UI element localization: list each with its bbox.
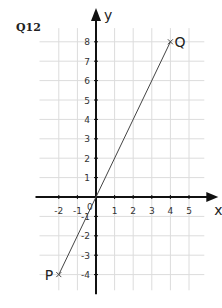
y-tick-label: -3	[81, 251, 90, 261]
coordinate-plot: xy-2-112345-4-3-2-1123456780PQ	[0, 0, 222, 308]
y-axis-arrow-icon	[91, 8, 101, 21]
x-tick-label: 1	[112, 206, 118, 216]
x-tick-label: 4	[168, 206, 174, 216]
y-tick-label: 4	[84, 115, 90, 125]
y-tick-label: 5	[84, 96, 90, 106]
y-tick-label: -4	[81, 270, 90, 280]
y-axis-label: y	[104, 7, 112, 23]
y-tick-label: 3	[84, 134, 90, 144]
y-tick-label: 8	[84, 37, 90, 47]
x-tick-label: 5	[186, 206, 192, 216]
y-tick-label: -2	[81, 231, 90, 241]
point-label-p: P	[45, 267, 53, 283]
x-tick-label: 2	[130, 206, 136, 216]
point-label-q: Q	[174, 34, 185, 50]
y-tick-label: 6	[84, 76, 90, 86]
x-axis-label: x	[214, 202, 222, 218]
x-axis-arrow-icon	[206, 192, 218, 202]
y-tick-label: 1	[84, 173, 90, 183]
x-tick-label: 3	[149, 206, 155, 216]
y-tick-label: 2	[84, 154, 90, 164]
x-tick-label: -2	[54, 206, 63, 216]
y-tick-label: 7	[84, 57, 90, 67]
